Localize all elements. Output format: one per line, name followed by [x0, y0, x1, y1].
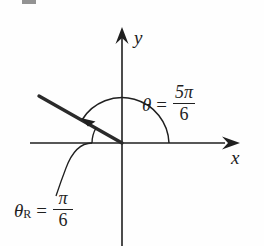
main-angle-fraction: 5π 6: [173, 83, 195, 124]
terminal-ray: [39, 96, 122, 143]
main-angle-theta-symbol: θ: [142, 95, 151, 114]
reference-angle-theta-symbol: θ: [14, 201, 23, 220]
reference-angle-subscript: R: [23, 208, 31, 220]
main-angle-denominator: 6: [178, 104, 191, 124]
angle-diagram-figure: y x θ = 5π 6 θ R = π 6: [0, 0, 264, 246]
reference-angle-arc: [92, 128, 96, 143]
main-angle-numerator: 5π: [173, 83, 195, 103]
reference-angle-denominator: 6: [57, 210, 70, 230]
reference-angle-equals-sign: =: [36, 201, 47, 220]
y-axis-label: y: [134, 28, 142, 47]
main-angle-equation: θ = 5π 6: [142, 84, 195, 125]
main-angle-equals-sign: =: [156, 95, 167, 114]
reference-angle-fraction: π 6: [53, 189, 73, 230]
reference-angle-numerator: π: [57, 189, 70, 209]
reference-angle-equation: θ R = π 6: [14, 190, 73, 231]
x-axis-label: x: [231, 148, 239, 167]
